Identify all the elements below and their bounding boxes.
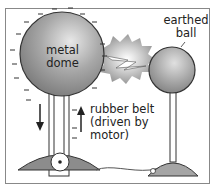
spark-glow [98, 34, 156, 84]
rubber-belt-label: rubber belt (driven by motor) [90, 103, 170, 142]
earthed-ball-label: earthed ball [160, 14, 212, 40]
label-line: motor) [90, 129, 170, 142]
label-line: dome [40, 57, 85, 70]
earthed-ball [149, 47, 195, 93]
belt-up-arrow [77, 106, 85, 132]
label-line: ball [160, 27, 212, 40]
ball-base [148, 163, 198, 176]
belt-down-arrow [36, 104, 44, 131]
motor-pulley [51, 153, 69, 171]
metal-dome-label: metal dome [40, 44, 85, 70]
ball-stand [170, 92, 176, 162]
